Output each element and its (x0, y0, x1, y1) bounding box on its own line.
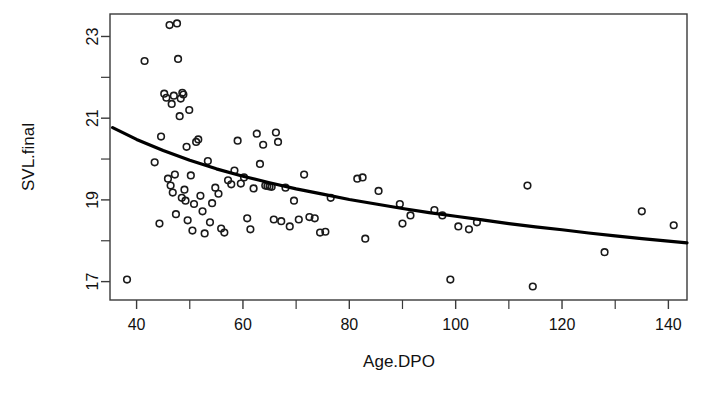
scatter-plot-svg: 406080100120140 17192123 Age.DPO SVL.fin… (0, 0, 727, 393)
y-tick-label: 17 (84, 273, 101, 291)
y-tick-label: 23 (84, 27, 101, 45)
x-axis-title: Age.DPO (363, 352, 435, 371)
x-tick-label: 100 (442, 316, 469, 333)
x-tick-label: 40 (128, 316, 146, 333)
x-tick-label: 80 (340, 316, 358, 333)
x-tick-label: 120 (549, 316, 576, 333)
y-tick-label: 21 (84, 109, 101, 127)
x-tick-label: 60 (234, 316, 252, 333)
y-axis-title: SVL.final (19, 123, 38, 191)
plot-background (0, 0, 727, 393)
chart-figure: 406080100120140 17192123 Age.DPO SVL.fin… (0, 0, 727, 393)
x-tick-label: 140 (655, 316, 682, 333)
y-tick-label: 19 (84, 191, 101, 209)
